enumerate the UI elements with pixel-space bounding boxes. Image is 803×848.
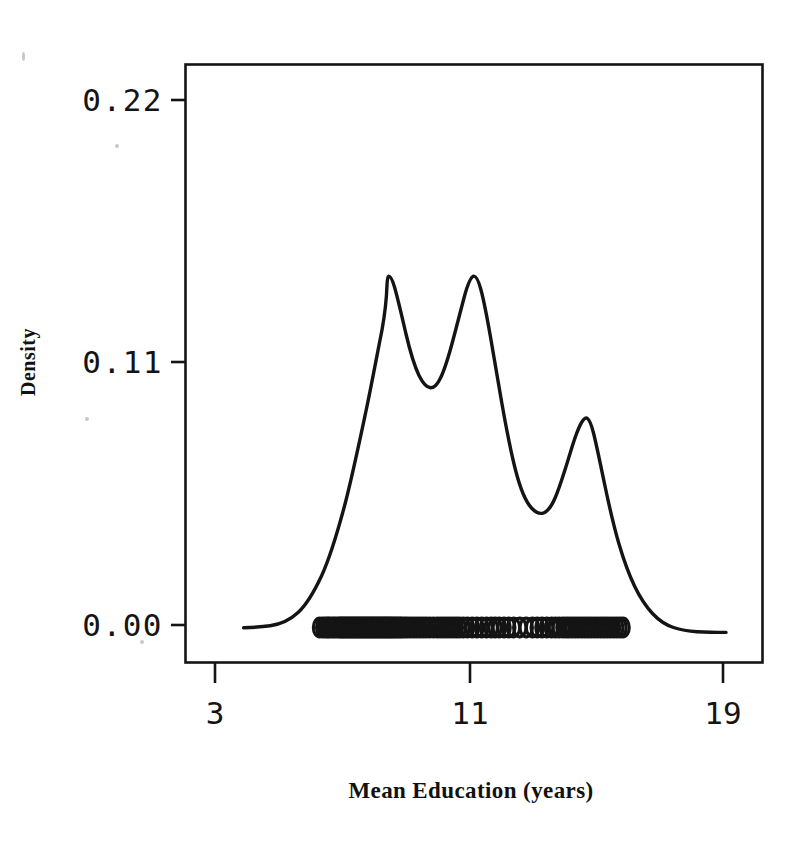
rug-plot [313,618,629,637]
density-plot-figure: 0.22 0.11 0.00 3 11 19 Density Mean Educ… [0,0,803,848]
x-tick-label-0: 3 [206,698,225,729]
y-tick-marks [171,100,186,625]
y-axis-title: Density [17,328,40,396]
y-tick-label-2: 0.00 [18,610,163,641]
x-axis-title: Mean Education (years) [348,778,593,804]
plot-frame [186,65,763,663]
y-tick-label-0: 0.22 [18,85,163,116]
density-curve [244,276,726,632]
x-tick-label-2: 19 [704,698,741,729]
y-tick-label-1: 0.11 [18,347,163,378]
x-tick-label-1: 11 [451,698,488,729]
x-tick-marks [215,662,723,683]
plot-canvas [0,0,803,848]
